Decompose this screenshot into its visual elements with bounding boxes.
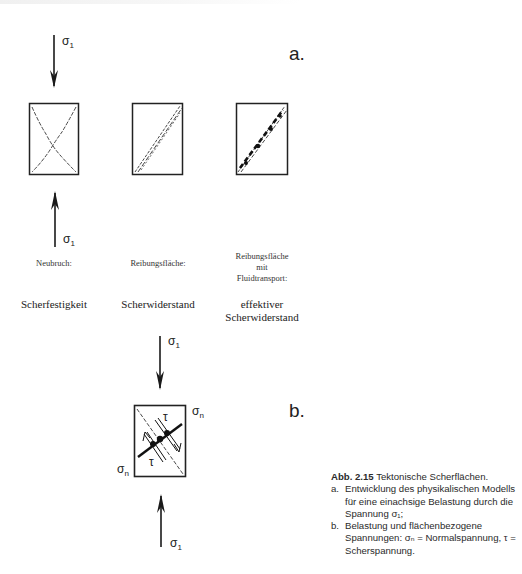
- property-scherfestigkeit: Scherfestigkeit: [0, 298, 109, 311]
- property-scherwiderstand: Scherwiderstand: [103, 298, 213, 311]
- sigma1-label-bottom-a: σ1: [63, 232, 75, 248]
- column-title-reibungsflaeche-fluid: Reibungsfläche mit Fluidtransport:: [212, 251, 312, 284]
- box-reibungsflaeche-fluid: [237, 104, 288, 175]
- box-reibungsflaeche: [133, 104, 183, 175]
- sigma-n-label-right: σn: [192, 404, 204, 420]
- column-title-reibungsflaeche: Reibungsfläche:: [108, 258, 208, 269]
- caption-item-a: a. Entwicklung des physikalischen Modell…: [331, 483, 521, 520]
- box-neubruch: [30, 104, 79, 175]
- sigma1-up-arrow-a: [51, 191, 59, 247]
- panel-b-label: b.: [289, 400, 305, 422]
- caption-item-b: b. Belastung und flächenbezogene Spannun…: [331, 520, 521, 557]
- panel-a-label: a.: [289, 43, 305, 65]
- column-title-neubruch: Neubruch:: [4, 258, 104, 269]
- tau-label-upper: τ: [163, 410, 168, 424]
- sigma1-down-arrow-b: [156, 336, 164, 390]
- caption-title: Abb. 2.15 Tektonische Scherflächen.: [331, 471, 521, 483]
- figure-caption: Abb. 2.15 Tektonische Scherflächen. a. E…: [331, 471, 521, 557]
- property-effektiver-scherwiderstand: effektiver Scherwiderstand: [207, 298, 317, 324]
- sigma1-label-top-a: σ1: [62, 34, 74, 50]
- sigma1-label-bottom-b: σ1: [170, 536, 182, 552]
- tau-label-lower: τ: [149, 455, 154, 469]
- sigma-n-label-left: σn: [117, 462, 129, 478]
- sigma1-label-top-b: σ1: [168, 334, 180, 350]
- sigma1-down-arrow-a: [50, 35, 58, 88]
- box-stress-diagram: [135, 406, 186, 477]
- sigma1-up-arrow-b: [157, 494, 165, 547]
